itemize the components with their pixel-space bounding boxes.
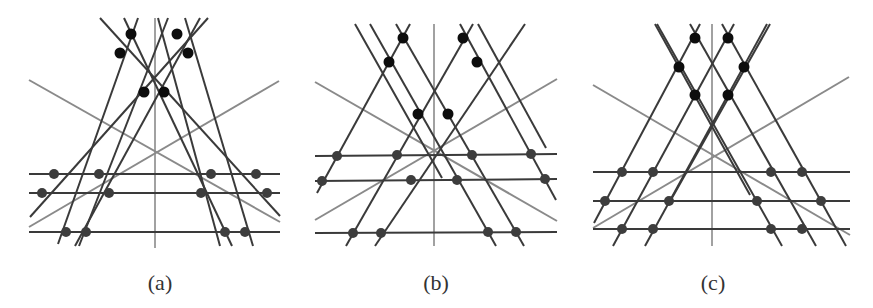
intersection-dot	[797, 224, 807, 234]
apex-dot	[126, 29, 137, 40]
intersection-dot	[376, 228, 386, 238]
dark-diagonal-line	[346, 24, 473, 246]
intersection-dot	[600, 196, 610, 206]
apex-dot	[723, 33, 734, 44]
apex-dot	[723, 90, 734, 101]
intersection-dot	[467, 150, 477, 160]
dark-diagonal-line	[594, 24, 700, 223]
panel-c	[593, 24, 850, 246]
intersection-dot	[81, 227, 91, 237]
intersection-dot	[797, 167, 807, 177]
intersection-dot	[61, 227, 71, 237]
intersection-dot	[49, 169, 59, 179]
intersection-dot	[392, 150, 402, 160]
intersection-dot	[452, 175, 462, 185]
intersection-dot	[766, 224, 776, 234]
intersection-dot	[240, 227, 250, 237]
intersection-dot	[37, 188, 47, 198]
apex-dot	[690, 33, 701, 44]
dark-diagonal-line	[722, 24, 846, 246]
apex-dot	[139, 87, 150, 98]
apex-dot	[384, 57, 395, 68]
dark-diagonal-line	[375, 24, 525, 246]
intersection-dot	[752, 196, 762, 206]
intersection-dot	[617, 224, 627, 234]
dark-diagonal-line	[657, 24, 782, 246]
intersection-dot	[104, 188, 114, 198]
apex-dot	[443, 109, 454, 120]
intersection-dot	[540, 174, 550, 184]
intersection-dot	[766, 167, 776, 177]
intersection-dot	[617, 167, 627, 177]
figure: (a) (b) (c)	[0, 0, 873, 308]
intersection-dot	[348, 228, 358, 238]
apex-dot	[458, 33, 469, 44]
apex-dot	[115, 48, 126, 59]
intersection-dot	[220, 227, 230, 237]
dark-diagonal-line	[185, 18, 253, 246]
panel-a	[29, 18, 280, 248]
dark-diagonal-line	[58, 18, 138, 244]
horizontal-line	[315, 179, 557, 181]
apex-dot	[398, 33, 409, 44]
apex-dot	[472, 57, 483, 68]
panel-label-b: (b)	[423, 270, 449, 296]
apex-dot	[413, 109, 424, 120]
diagram-canvas	[0, 0, 873, 308]
intersection-dot	[526, 149, 536, 159]
intersection-dot	[251, 169, 261, 179]
intersection-dot	[317, 176, 327, 186]
panel-b	[315, 24, 557, 246]
dark-diagonal-line	[100, 18, 280, 216]
intersection-dot	[511, 227, 521, 237]
panel-label-c: (c)	[701, 270, 725, 296]
apex-dot	[690, 90, 701, 101]
intersection-dot	[648, 224, 658, 234]
intersection-dot	[406, 175, 416, 185]
intersection-dot	[816, 196, 826, 206]
intersection-dot	[664, 196, 674, 206]
apex-dot	[739, 62, 750, 73]
apex-dot	[172, 29, 183, 40]
intersection-dot	[648, 167, 658, 177]
intersection-dot	[206, 169, 216, 179]
intersection-dot	[196, 188, 206, 198]
intersection-dot	[262, 188, 272, 198]
dark-diagonal-line	[396, 24, 524, 246]
dark-diagonal-line	[75, 18, 200, 246]
dark-diagonal-line	[690, 24, 816, 246]
apex-dot	[159, 87, 170, 98]
intersection-dot	[483, 227, 493, 237]
intersection-dot	[94, 169, 104, 179]
panel-label-a: (a)	[148, 270, 172, 296]
intersection-dot	[332, 151, 342, 161]
dark-diagonal-line	[645, 24, 767, 246]
dark-diagonal-line	[317, 24, 410, 193]
apex-dot	[183, 48, 194, 59]
apex-dot	[674, 62, 685, 73]
